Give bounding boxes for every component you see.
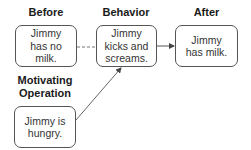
before-heading: Before [15, 6, 77, 19]
after-heading: After [175, 6, 238, 19]
behavior-box: Jimmy kicks and screams. [96, 25, 157, 67]
before-box-line3: milk. [30, 52, 62, 65]
behavior-heading: Behavior [93, 6, 159, 19]
after-box-line1: Jimmy [186, 34, 227, 47]
mo-box-line2: hungry. [25, 127, 66, 140]
before-heading-text: Before [29, 6, 64, 18]
mo-box-line1: Jimmy is [25, 115, 66, 128]
after-box-line2: has milk. [186, 46, 227, 59]
behavior-heading-text: Behavior [102, 6, 149, 18]
behavior-box-line3: screams. [105, 52, 149, 65]
motivating-operation-heading: Motivating Operation [5, 74, 85, 100]
motivating-operation-box: Jimmy is hungry. [14, 106, 76, 148]
before-box-line1: Jimmy [30, 27, 62, 40]
behavior-box-line2: kicks and [105, 40, 149, 53]
before-box-line2: has no [30, 40, 62, 53]
behavior-box-line1: Jimmy [105, 27, 149, 40]
before-box: Jimmy has no milk. [15, 25, 77, 67]
after-heading-text: After [194, 6, 220, 18]
mo-heading-line2: Operation [5, 87, 85, 100]
after-box: Jimmy has milk. [175, 25, 238, 67]
mo-heading-line1: Motivating [5, 74, 85, 87]
